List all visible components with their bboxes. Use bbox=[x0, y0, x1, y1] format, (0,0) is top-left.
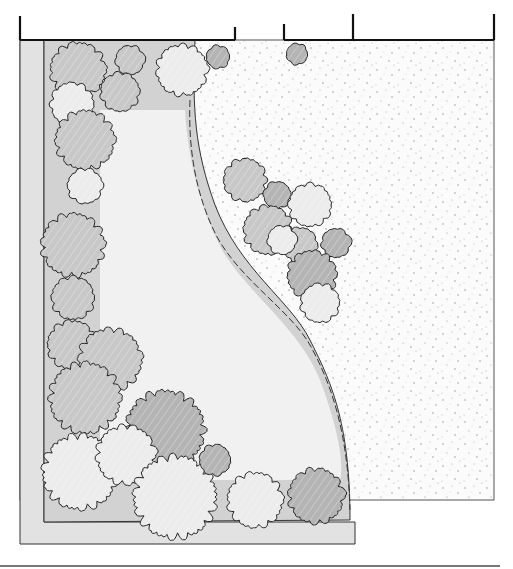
fence bbox=[20, 14, 494, 40]
garden-plan bbox=[0, 0, 513, 569]
